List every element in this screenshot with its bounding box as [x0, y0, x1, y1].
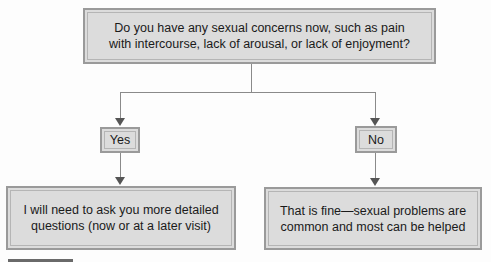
connector-to-yes: [120, 92, 121, 120]
yes-box: Yes: [100, 127, 140, 153]
no-label: No: [368, 132, 384, 148]
connector-horizontal: [120, 92, 376, 93]
yes-label: Yes: [110, 132, 130, 148]
yes-outcome-box: I will need to ask you more detailed que…: [6, 186, 236, 250]
yes-outcome-text: I will need to ask you more detailed que…: [23, 202, 218, 234]
arrow-yes-outcome-icon: [115, 177, 125, 185]
connector-yes-to-outcome: [120, 153, 121, 179]
arrow-no-outcome-icon: [370, 178, 380, 186]
no-outcome-box: That is fine—sexual problems are common …: [264, 187, 482, 250]
connector-to-no: [375, 92, 376, 120]
no-outcome-text: That is fine—sexual problems are common …: [280, 203, 466, 235]
question-box: Do you have any sexual concerns now, suc…: [83, 8, 436, 64]
no-box: No: [355, 126, 397, 153]
connector-no-to-outcome: [375, 153, 376, 179]
arrow-to-no-icon: [370, 118, 380, 126]
arrow-to-yes-icon: [115, 118, 125, 126]
question-text: Do you have any sexual concerns now, suc…: [109, 20, 410, 52]
connector-question-down: [251, 64, 252, 92]
